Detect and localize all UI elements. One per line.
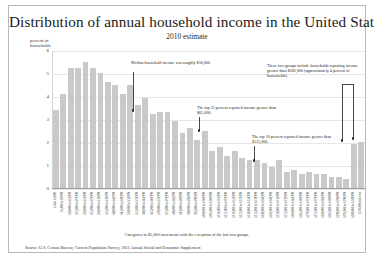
bar [276, 160, 282, 188]
bar [60, 94, 66, 188]
bar-column [74, 51, 81, 188]
bar [172, 121, 178, 188]
y-axis-tick: 2 [35, 140, 49, 145]
x-axis-tick-label: $5,000 to $9,999 [59, 190, 66, 232]
bar [150, 114, 156, 188]
x-axis-tick-label: $105,000 to $109,999 [209, 190, 216, 232]
annotation-median-leader [133, 72, 134, 110]
bar-column [209, 51, 216, 188]
bar-column [52, 51, 59, 188]
bar [217, 147, 223, 188]
bar [120, 94, 126, 188]
bar-column [134, 51, 141, 188]
bar-column [112, 51, 119, 188]
bar [157, 112, 163, 188]
annotation-median: Median household income was roughly $50,… [131, 60, 211, 65]
x-axis-tick-label: $160,000 to $164,999 [291, 190, 298, 232]
annotation-top-groups-leader-right [353, 84, 354, 138]
chart-page: Distribution of annual household income … [0, 0, 374, 260]
chart-source: Source: U.S. Census Bureau, Current Popu… [25, 245, 200, 250]
x-axis-tick-label: $20,000 to $24,999 [82, 190, 89, 232]
bar [187, 128, 193, 188]
bar-column [149, 51, 156, 188]
bar [321, 174, 327, 188]
bar [291, 170, 297, 188]
bar [112, 85, 118, 189]
x-axis-tick-labels: Under $5,000$5,000 to $9,999$10,000 to $… [52, 190, 365, 232]
bar [83, 62, 89, 189]
bar [98, 73, 104, 188]
bar [90, 68, 96, 188]
bar [142, 98, 148, 188]
x-axis-tick-label: $15,000 to $19,999 [74, 190, 81, 232]
annotation-top-groups-leader-bridge [342, 84, 354, 85]
x-axis-tick-label: $55,000 to $59,999 [134, 190, 141, 232]
bar [232, 151, 238, 188]
x-axis-tick-label: $120,000 to $124,999 [231, 190, 238, 232]
annotation-top25-dot [198, 129, 201, 132]
x-axis-tick-label: $35,000 to $39,999 [104, 190, 111, 232]
x-axis-tick-label: $40,000 to $44,999 [112, 190, 119, 232]
x-axis-tick-label: $150,000 to $154,999 [276, 190, 283, 232]
bar-column [59, 51, 66, 188]
bar [68, 68, 74, 188]
x-axis-tick-label: $145,000 to $149,999 [268, 190, 275, 232]
bar [314, 174, 320, 188]
x-axis-tick-label: $70,000 to $74,999 [156, 190, 163, 232]
bar-column [141, 51, 148, 188]
x-axis-tick-label: $65,000 to $69,999 [149, 190, 156, 232]
bar [343, 179, 349, 188]
bar-column [164, 51, 171, 188]
x-axis-tick-label: $250,000 and over [358, 190, 365, 232]
bar-column [231, 51, 238, 188]
bar [351, 144, 357, 188]
annotation-top10: The top 10 percent reported income great… [252, 134, 336, 144]
x-axis-tick-label: $115,000 to $119,999 [223, 190, 230, 232]
y-axis-tick: 4 [35, 94, 49, 99]
annotation-top10-leader [254, 146, 255, 160]
bar [202, 131, 208, 189]
bar [224, 156, 230, 188]
bar [165, 112, 171, 188]
bar [239, 158, 245, 188]
x-axis-tick-label: $155,000 to $159,999 [283, 190, 290, 232]
bar [254, 160, 260, 188]
bar [269, 167, 275, 188]
x-axis-tick-label: $185,000 to $189,999 [328, 190, 335, 232]
bar-column [119, 51, 126, 188]
x-axis-tick-label: $25,000 to $29,999 [89, 190, 96, 232]
bar [75, 68, 81, 188]
x-axis-tick-label: $200,000 to $249,999 [350, 190, 357, 232]
x-axis-tick-label: $180,000 to $184,999 [320, 190, 327, 232]
bar [299, 174, 305, 188]
bar-column [246, 51, 253, 188]
bar-column [223, 51, 230, 188]
x-axis-tick-label: $110,000 to $114,999 [216, 190, 223, 232]
bar-column [104, 51, 111, 188]
x-axis-tick-label: $195,000 to $199,999 [343, 190, 350, 232]
x-axis-tick-label: $140,000 to $144,999 [261, 190, 268, 232]
x-axis-tick-label: $85,000 to $89,999 [179, 190, 186, 232]
x-axis-tick-label: $130,000 to $134,999 [246, 190, 253, 232]
x-axis-tick-label: $95,000 to $99,999 [194, 190, 201, 232]
bar-column [67, 51, 74, 188]
x-axis-tick-label: $175,000 to $179,999 [313, 190, 320, 232]
x-axis-tick-label: $170,000 to $174,999 [305, 190, 312, 232]
bar [306, 172, 312, 188]
x-axis-tick-label: $125,000 to $129,999 [238, 190, 245, 232]
chart-title: Distribution of annual household income … [9, 13, 365, 31]
bar [135, 105, 141, 188]
bar [105, 82, 111, 188]
y-axis-tick: 1 [35, 163, 49, 168]
bar-column [186, 51, 193, 188]
x-axis-tick-label: $75,000 to $79,999 [164, 190, 171, 232]
x-axis-tick-label: $60,000 to $64,999 [141, 190, 148, 232]
bar-column [156, 51, 163, 188]
bar-column [82, 51, 89, 188]
bar-column [179, 51, 186, 188]
x-axis-tick-label: $190,000 to $194,999 [335, 190, 342, 232]
x-axis-tick-label: Under $5,000 [52, 190, 59, 232]
bar [194, 140, 200, 188]
annotation-top-groups-leader-left [342, 84, 343, 140]
bar-column [216, 51, 223, 188]
